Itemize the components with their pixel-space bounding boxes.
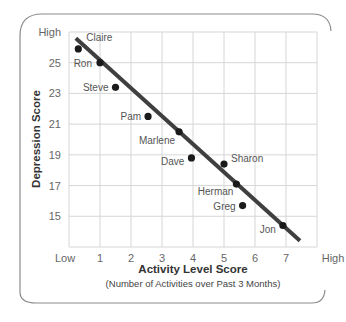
x-tick-label: 2 (128, 252, 134, 264)
point-label: Steve (83, 82, 109, 93)
point-label: Sharon (231, 153, 263, 164)
point-marker (175, 128, 182, 135)
x-tick-label: 6 (252, 252, 258, 264)
point-label: Herman (198, 186, 234, 197)
point-label: Claire (86, 32, 113, 43)
data-point-herman: Herman (198, 180, 240, 197)
data-point-steve: Steve (83, 82, 119, 93)
point-marker (233, 180, 240, 187)
y-tick-label: 17 (49, 180, 61, 192)
point-marker (144, 113, 151, 120)
y-tick-label: 19 (49, 149, 61, 161)
point-label: Jon (260, 224, 276, 235)
point-label: Pam (120, 111, 141, 122)
trend-line (76, 38, 300, 241)
data-point-jon: Jon (260, 222, 287, 235)
point-label: Marlene (139, 135, 176, 146)
point-marker (239, 202, 246, 209)
x-axis-title: Activity Level Score (138, 263, 247, 275)
y-tick-label: 15 (49, 210, 61, 222)
x-axis-subtitle: (Number of Activities over Past 3 Months… (106, 278, 281, 289)
point-marker (188, 154, 195, 161)
y-tick-label: 25 (49, 57, 61, 69)
point-marker (75, 45, 82, 52)
data-point-pam: Pam (120, 111, 151, 122)
x-tick-label: High (322, 252, 345, 264)
data-point-greg: Greg (213, 201, 246, 212)
data-point-dave: Dave (161, 154, 195, 167)
data-point-marlene: Marlene (139, 128, 183, 146)
point-marker (112, 84, 119, 91)
point-marker (96, 59, 103, 66)
point-label: Greg (213, 201, 235, 212)
point-marker (220, 160, 227, 167)
x-tick-label: Low (55, 252, 75, 264)
point-label: Ron (74, 58, 92, 69)
point-label: Dave (161, 156, 185, 167)
y-tick-label: 21 (49, 118, 61, 130)
x-tick-label: 7 (283, 252, 289, 264)
y-tick-label: High (38, 26, 61, 38)
y-tick-label: 23 (49, 87, 61, 99)
y-axis-title: Depression Score (30, 90, 42, 188)
point-marker (279, 222, 286, 229)
x-tick-label: 1 (97, 252, 103, 264)
data-point-ron: Ron (74, 58, 104, 69)
scatter-chart: Low1234567High 151719212325High ClaireRo… (0, 0, 346, 322)
